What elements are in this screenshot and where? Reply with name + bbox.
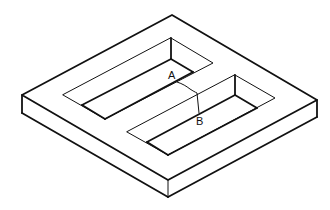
diagram-canvas: A B (0, 0, 330, 210)
path-a-to-b (177, 82, 199, 113)
label-a: A (168, 69, 176, 81)
label-b: B (196, 115, 203, 127)
slab-outline (22, 15, 317, 197)
slot-upper (63, 38, 213, 119)
slab-drawing: A B (0, 0, 330, 210)
